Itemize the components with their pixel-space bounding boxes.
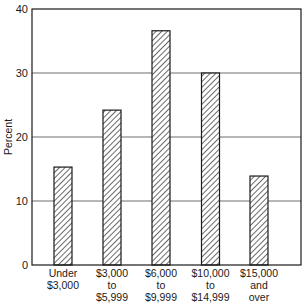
y-tick-label: 0	[22, 259, 28, 271]
y-tick-label: 40	[16, 3, 28, 15]
bar-chart: 010203040 Under$3,000$3,000to$5,999$6,00…	[0, 0, 308, 305]
x-axis-labels: Under$3,000$3,000to$5,999$6,000to$9,999$…	[47, 267, 278, 303]
bar	[54, 167, 72, 265]
bar	[152, 31, 170, 265]
bar	[250, 176, 268, 265]
x-tick-label: $10,000to$14,999	[192, 267, 230, 303]
x-tick-label: $15,000andover	[240, 267, 278, 303]
bars	[54, 31, 268, 265]
bar	[202, 73, 220, 265]
bar	[103, 110, 121, 265]
x-tick-label: $6,000to$9,999	[145, 267, 177, 303]
y-tick-label: 30	[16, 67, 28, 79]
x-tick-label: Under$3,000	[47, 267, 79, 291]
y-tick-label: 20	[16, 131, 28, 143]
y-axis-ticks: 010203040	[16, 3, 28, 271]
y-tick-label: 10	[16, 195, 28, 207]
x-tick-label: $3,000to$5,999	[96, 267, 128, 303]
y-axis-label: Percent	[2, 119, 14, 155]
